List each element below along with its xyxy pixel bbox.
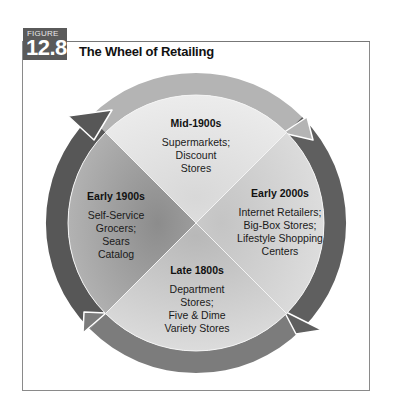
era-description-line: Stores; xyxy=(180,296,213,308)
wheel-of-retailing-diagram: Mid-1900s Supermarkets; Discount Stores … xyxy=(0,0,393,409)
era-description-line: Internet Retailers; xyxy=(239,206,322,218)
era-description-line: Discount xyxy=(176,149,217,161)
era-description-line: Variety Stores xyxy=(164,322,229,334)
era-description-line: Self-Service xyxy=(88,209,145,221)
era-description-line: Centers xyxy=(262,245,299,257)
era-label: Early 2000s xyxy=(251,187,309,199)
era-description-line: Supermarkets; xyxy=(162,136,230,148)
era-label: Early 1900s xyxy=(87,190,145,202)
era-description-line: Big-Box Stores; xyxy=(244,219,317,231)
era-description-line: Sears xyxy=(102,235,129,247)
era-description-line: Lifestyle Shopping xyxy=(237,232,323,244)
era-description-line: Stores xyxy=(181,162,211,174)
era-description-line: Grocers; xyxy=(96,222,136,234)
era-description-line: Department xyxy=(170,283,225,295)
era-description-line: Five & Dime xyxy=(168,309,225,321)
era-label: Mid-1900s xyxy=(171,117,222,129)
era-label: Late 1800s xyxy=(170,264,224,276)
era-description-line: Catalog xyxy=(98,248,134,260)
